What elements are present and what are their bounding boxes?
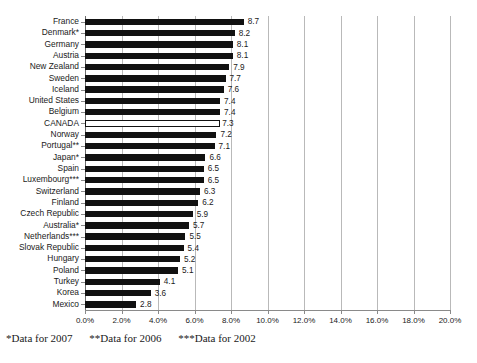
category-label: Portugal**: [0, 140, 79, 151]
y-tick-mark: [81, 22, 85, 23]
x-tick-mark: [122, 310, 123, 314]
category-label: CANADA: [0, 118, 79, 129]
y-tick-mark: [81, 191, 85, 192]
x-tick-mark: [268, 310, 269, 314]
bar: [85, 132, 216, 138]
bar-row: 7.4: [85, 106, 450, 117]
y-tick-mark: [81, 56, 85, 57]
category-label: Spain: [0, 163, 79, 174]
y-tick-mark: [81, 203, 85, 204]
category-label: Finland: [0, 197, 79, 208]
category-label: Japan*: [0, 152, 79, 163]
bar-row: 2.8: [85, 299, 450, 310]
category-label: Czech Republic: [0, 208, 79, 219]
bar-row: 6.5: [85, 174, 450, 185]
bar: [85, 200, 198, 206]
category-label: Iceland: [0, 84, 79, 95]
bar: [85, 166, 204, 172]
bar-value-label: 7.1: [219, 141, 230, 152]
bar: [85, 109, 220, 115]
bar-row: 6.3: [85, 186, 450, 197]
bar-row: 7.7: [85, 73, 450, 84]
bar-row: 7.1: [85, 140, 450, 151]
bar-row: 6.6: [85, 152, 450, 163]
category-label: Switzerland: [0, 186, 79, 197]
bar: [85, 267, 178, 273]
x-tick-mark: [231, 310, 232, 314]
bar-value-label: 7.6: [228, 84, 239, 95]
y-tick-mark: [81, 112, 85, 113]
category-label: Belgium: [0, 106, 79, 117]
y-tick-mark: [81, 214, 85, 215]
bar-chart: FranceDenmark*GermanyAustriaNew ZealandS…: [0, 0, 477, 363]
category-label: Denmark*: [0, 27, 79, 38]
bar-value-label: 3.6: [155, 288, 166, 299]
bar: [85, 301, 136, 307]
bar-value-label: 7.3: [222, 118, 233, 129]
category-label: Sweden: [0, 73, 79, 84]
category-label: Germany: [0, 39, 79, 50]
bar-row: 6.5: [85, 163, 450, 174]
y-tick-mark: [81, 270, 85, 271]
bar: [85, 154, 205, 160]
bar: [85, 290, 151, 296]
bar-value-label: 7.7: [230, 73, 241, 84]
bar-row: 5.1: [85, 265, 450, 276]
category-label: Slovak Republic: [0, 242, 79, 253]
x-gridline: [450, 16, 451, 310]
bar-value-label: 8.7: [248, 16, 259, 27]
bar-value-label: 6.2: [202, 197, 213, 208]
bar: [85, 75, 226, 81]
bar-row: 7.9: [85, 61, 450, 72]
x-tick-mark: [377, 310, 378, 314]
bar: [85, 233, 185, 239]
y-tick-mark: [81, 44, 85, 45]
bar-row: 5.5: [85, 231, 450, 242]
category-label: New Zealand: [0, 61, 79, 72]
category-label: Netherlands***: [0, 231, 79, 242]
y-tick-mark: [81, 169, 85, 170]
bar-row: 8.1: [85, 50, 450, 61]
bar-value-label: 8.1: [237, 50, 248, 61]
bar: [85, 222, 189, 228]
bar-row: 4.1: [85, 276, 450, 287]
page-top-cutoff-text: [0, 0, 477, 9]
bar: [85, 143, 215, 149]
bar-value-label: 8.1: [237, 39, 248, 50]
y-tick-mark: [81, 293, 85, 294]
bar: [85, 41, 233, 47]
bar-row: 5.9: [85, 208, 450, 219]
y-tick-mark: [81, 90, 85, 91]
y-tick-mark: [81, 157, 85, 158]
y-tick-mark: [81, 282, 85, 283]
plot-area: 8.78.28.18.17.97.77.67.47.47.37.27.16.66…: [85, 16, 450, 310]
bar-row: 8.1: [85, 39, 450, 50]
bar: [85, 86, 224, 92]
x-tick-mark: [341, 310, 342, 314]
category-label: Poland: [0, 265, 79, 276]
y-tick-mark: [81, 67, 85, 68]
bar-row: 5.2: [85, 253, 450, 264]
y-tick-mark: [81, 33, 85, 34]
footnotes: *Data for 2007 **Data for 2006 ***Data f…: [6, 331, 270, 345]
bar: [85, 98, 220, 104]
bar-row: 7.2: [85, 129, 450, 140]
category-label: United States: [0, 95, 79, 106]
bar-value-label: 7.2: [220, 129, 231, 140]
bar-row: 7.4: [85, 95, 450, 106]
bar: [85, 245, 184, 251]
y-tick-mark: [81, 304, 85, 305]
x-tick-mark: [195, 310, 196, 314]
bar-row: 7.3: [85, 118, 450, 129]
bar-highlight-canada: [85, 120, 220, 126]
bar-value-label: 2.8: [140, 299, 151, 310]
bar-value-label: 5.9: [197, 209, 208, 220]
category-label: Norway: [0, 129, 79, 140]
y-tick-mark: [81, 248, 85, 249]
y-tick-mark: [81, 259, 85, 260]
y-tick-mark: [81, 146, 85, 147]
x-tick-mark: [158, 310, 159, 314]
bar-value-label: 7.9: [233, 62, 244, 73]
bar-row: 5.4: [85, 242, 450, 253]
bar-row: 3.6: [85, 287, 450, 298]
